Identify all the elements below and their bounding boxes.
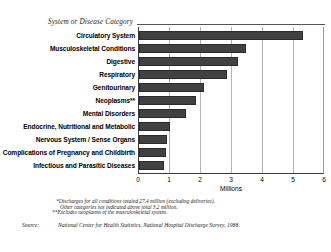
category-label: Nervous System / Sense Organs (36, 135, 135, 144)
x-tick-label-4: 4 (254, 176, 270, 184)
figure-bar-chart-hospital-discharges: System or Disease Category Circulatory S… (0, 0, 331, 252)
category-label: Genitourinary (93, 83, 135, 92)
source-row: Source:National Center for Health Statis… (22, 222, 240, 228)
chart-area: System or Disease Category Circulatory S… (0, 0, 331, 196)
x-tick-label-0: 0 (130, 176, 146, 184)
x-tick-label-2: 2 (192, 176, 208, 184)
source-label: Source: (22, 222, 58, 228)
category-label: Neoplasms** (96, 96, 135, 105)
footnote-neoplasms-exclusion: **Excludes neoplasms of the musculoskele… (52, 210, 167, 216)
category-label: Circulatory System (76, 31, 135, 40)
x-tick-label-3: 3 (223, 176, 239, 184)
plot-frame (138, 27, 324, 174)
source-text: National Center for Health Statistics, N… (58, 222, 240, 228)
category-label: Infectious and Parasitic Diseases (33, 161, 135, 170)
category-label: Respiratory (99, 70, 135, 79)
x-tick-label-1: 1 (161, 176, 177, 184)
x-axis-title: Millions (138, 185, 324, 192)
plot-area (138, 27, 324, 174)
category-label: Endocrine, Nutritional and Metabolic (23, 122, 135, 131)
x-tick-label-5: 5 (285, 176, 301, 184)
category-header-rule (137, 24, 325, 25)
category-label: Digestive (106, 57, 135, 66)
x-tick-label-6: 6 (316, 176, 331, 184)
category-axis-title: System or Disease Category (48, 18, 133, 26)
category-label: Complications of Pregnancy and Childbirt… (3, 148, 135, 157)
category-label: Mental Disorders (83, 109, 135, 118)
category-label: Musculoskeletal Conditions (50, 44, 135, 53)
